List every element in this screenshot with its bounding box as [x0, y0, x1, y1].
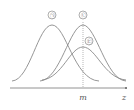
z-label: z [121, 93, 127, 102]
svg-text:㉢: ㉢ [87, 38, 92, 45]
svg-text:㉠: ㉠ [50, 12, 55, 19]
svg-text:㉡: ㉡ [81, 12, 86, 19]
label-b: ㉡ [79, 11, 87, 19]
curve-a [12, 25, 99, 81]
axis-end-dot [125, 87, 127, 89]
label-a: ㉠ [48, 11, 56, 19]
curve-c [42, 47, 126, 80]
normal-curves-diagram: ㉠ ㉡ ㉢ m z [0, 0, 134, 110]
label-c: ㉢ [85, 37, 93, 45]
m-label: m [79, 93, 87, 102]
